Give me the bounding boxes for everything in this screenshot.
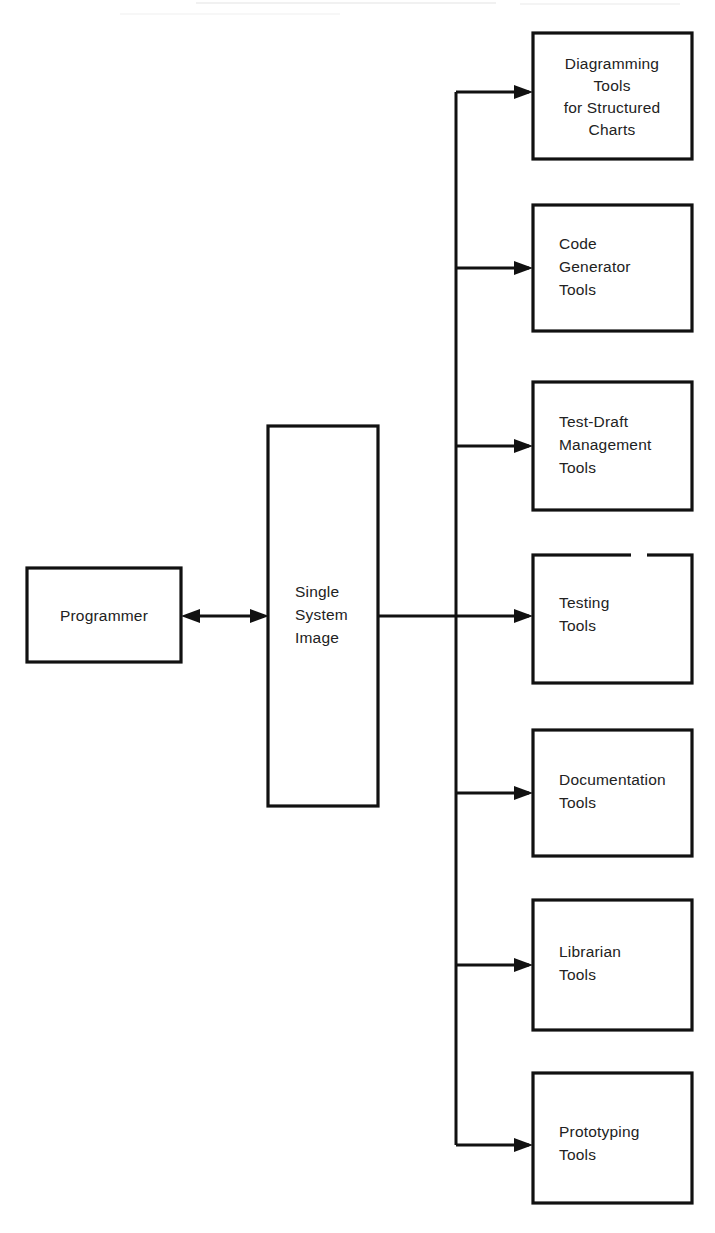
librarian-tools-box[interactable] <box>533 900 692 1030</box>
testing-tools-box[interactable] <box>533 555 692 683</box>
diagramming-tools-box[interactable] <box>533 33 692 159</box>
test-draft-tools-label-line-1: Test-Draft <box>559 413 629 430</box>
test-draft-tools-label-line-2: Management <box>559 436 652 453</box>
node-documentation-tools[interactable]: Documentation Tools <box>533 730 692 856</box>
node-code-generator-tools[interactable]: Code Generator Tools <box>533 205 692 331</box>
arrow-head-test-draft-tools <box>514 439 533 453</box>
documentation-tools-box[interactable] <box>533 730 692 856</box>
testing-tools-box-scan-gap <box>631 551 647 559</box>
librarian-tools-label-line-1: Librarian <box>559 943 621 960</box>
documentation-tools-label-line-1: Documentation <box>559 771 666 788</box>
code-generator-tools-label-line-2: Generator <box>559 258 631 275</box>
testing-tools-label-line-1: Testing <box>559 594 610 611</box>
test-draft-tools-label-line-3: Tools <box>559 459 596 476</box>
scan-artifacts <box>120 2 680 15</box>
diagramming-tools-label-line-4: Charts <box>589 121 636 138</box>
node-single-system-image[interactable]: Single System Image <box>268 426 378 806</box>
arrow-head-librarian-tools <box>514 958 533 972</box>
librarian-tools-label-line-2: Tools <box>559 966 596 983</box>
code-generator-tools-label-line-3: Tools <box>559 281 596 298</box>
arrow-head-code-generator-tools <box>514 261 533 275</box>
diagram-canvas: Programmer Single System Image Diagrammi… <box>0 0 715 1233</box>
node-programmer[interactable]: Programmer <box>27 568 181 662</box>
diagramming-tools-label-line-2: Tools <box>593 77 630 94</box>
diagramming-tools-label-line-1: Diagramming <box>565 55 659 72</box>
programmer-label: Programmer <box>60 607 148 624</box>
testing-tools-label-line-2: Tools <box>559 617 596 634</box>
prototyping-tools-label-line-2: Tools <box>559 1146 596 1163</box>
arrow-head-documentation-tools <box>514 786 533 800</box>
arrow-head-to-programmer <box>181 609 200 623</box>
arrow-head-to-hub <box>250 609 269 623</box>
arrow-head-diagramming-tools <box>514 85 533 99</box>
node-librarian-tools[interactable]: Librarian Tools <box>533 900 692 1030</box>
hub-label-line-2: System <box>295 606 348 623</box>
code-generator-tools-label-line-1: Code <box>559 235 597 252</box>
arrow-head-prototyping-tools <box>514 1138 533 1152</box>
node-test-draft-management-tools[interactable]: Test-Draft Management Tools <box>533 382 692 510</box>
arrow-head-testing-tools <box>514 609 533 623</box>
diagram-root: Programmer Single System Image Diagrammi… <box>0 0 715 1233</box>
documentation-tools-label-line-2: Tools <box>559 794 596 811</box>
diagramming-tools-label-line-3: for Structured <box>564 99 661 116</box>
node-testing-tools[interactable]: Testing Tools <box>533 551 692 683</box>
node-diagramming-tools[interactable]: Diagramming Tools for Structured Charts <box>533 33 692 159</box>
hub-label-line-1: Single <box>295 583 339 600</box>
prototyping-tools-label-line-1: Prototyping <box>559 1123 640 1140</box>
hub-label-line-3: Image <box>295 629 339 646</box>
node-prototyping-tools[interactable]: Prototyping Tools <box>533 1073 692 1203</box>
